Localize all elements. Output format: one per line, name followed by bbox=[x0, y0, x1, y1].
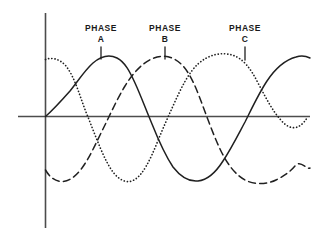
phase-b-label-line1: PHASE bbox=[149, 23, 181, 33]
phase-b-label-line2: B bbox=[162, 34, 169, 44]
phase-a-label-line2: A bbox=[98, 34, 105, 44]
three-phase-waveform-diagram: PHASE A PHASE B PHASE C bbox=[0, 0, 326, 235]
phase-c-label-line2: C bbox=[242, 34, 249, 44]
phase-c-label-line1: PHASE bbox=[229, 23, 261, 33]
phase-a-label-line1: PHASE bbox=[85, 23, 117, 33]
